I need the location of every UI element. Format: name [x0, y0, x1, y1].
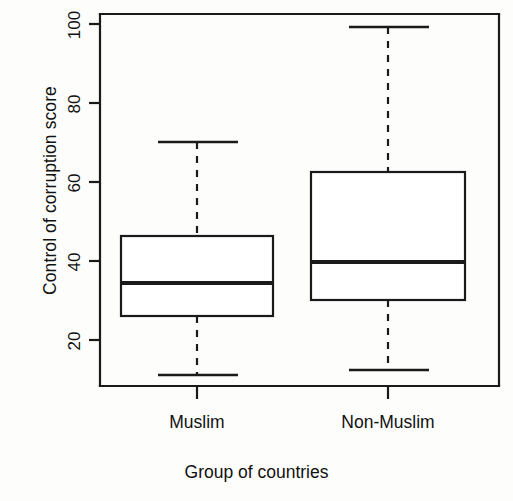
box-iqr-muslim	[121, 236, 273, 316]
y-axis-ticks	[89, 24, 100, 340]
x-axis-title: Group of countries	[0, 462, 513, 483]
x-tick-label-muslim: Muslim	[97, 412, 297, 433]
x-axis-ticks	[197, 386, 388, 399]
box-iqr-non-muslim	[311, 172, 465, 300]
x-tick-label-non-muslim: Non-Muslim	[288, 412, 488, 433]
box-non-muslim	[311, 27, 465, 370]
box-muslim	[121, 142, 273, 375]
boxplot-figure: Control of corruption score 100 80 60 40…	[0, 0, 513, 501]
